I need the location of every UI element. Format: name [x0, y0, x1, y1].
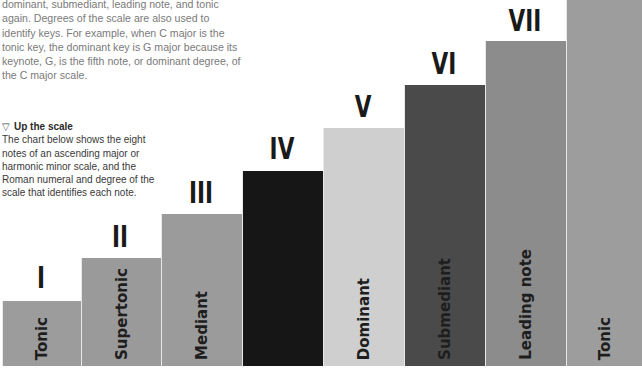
intro-paragraph: dominant, submediant, leading note, and … — [2, 0, 242, 83]
numeral-label: I — [12, 263, 70, 293]
bar-label: Leading note — [517, 249, 535, 360]
bar-label: Mediant — [193, 291, 211, 360]
bar-label: Tonic — [596, 317, 614, 360]
caption-title: Up the scale — [14, 120, 73, 133]
bar-degree-4 — [242, 171, 323, 366]
bar-label: Dominant — [355, 278, 373, 360]
numeral-label: III — [172, 178, 230, 208]
bar-degree-6: Submediant — [404, 85, 485, 366]
numeral-label: II — [91, 222, 149, 252]
bar-degree-5: Dominant — [323, 128, 404, 366]
bar-degree-3: Mediant — [161, 214, 242, 366]
caption-heading: ▽ Up the scale — [2, 120, 162, 133]
bar-label: Tonic — [33, 317, 51, 360]
numeral-label: IV — [253, 134, 311, 164]
caption-body: The chart below shows the eight notes of… — [2, 133, 162, 199]
bar-label: Submediant — [436, 258, 454, 360]
bar-degree-2: Supertonic — [81, 258, 161, 366]
numeral-label: VII — [496, 6, 554, 36]
triangle-down-icon: ▽ — [2, 120, 10, 133]
bar-degree-7: Leading note — [485, 41, 566, 366]
bar-degree-1: Tonic — [2, 301, 81, 366]
numeral-label: VI — [415, 49, 473, 79]
bar-degree-8: Tonic — [566, 0, 642, 366]
numeral-label: V — [334, 92, 392, 122]
bar-label: Supertonic — [113, 268, 131, 360]
chart-caption: ▽ Up the scale The chart below shows the… — [2, 120, 162, 200]
